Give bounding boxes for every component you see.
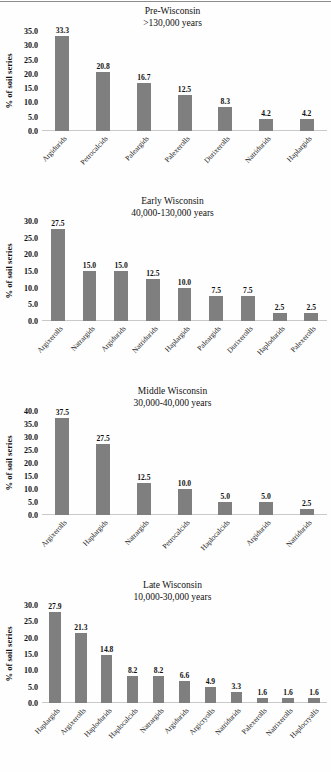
bar[interactable]	[205, 687, 216, 703]
bar[interactable]	[282, 698, 293, 703]
bar-slot: 27.5	[42, 221, 74, 321]
bar[interactable]	[75, 633, 86, 703]
bar-value-label: 1.6	[309, 688, 319, 697]
bar[interactable]	[127, 676, 138, 703]
bar-slot: 2.5	[286, 411, 327, 515]
bar-value-label: 6.6	[180, 671, 190, 680]
x-axis-labels: ArgixerollsNatrargidsArgiduridsNatriduri…	[42, 322, 327, 378]
y-tick-label: 10.0	[24, 485, 38, 494]
bar-series: 27.515.015.012.510.07.57.52.52.5	[42, 221, 327, 321]
bar[interactable]	[96, 444, 110, 516]
bar[interactable]	[146, 279, 160, 321]
bar-slot: 10.0	[169, 221, 201, 321]
y-tick-label: 15.0	[24, 267, 38, 276]
chart-title-line1: Early Wisconsin	[141, 196, 204, 206]
bar-value-label: 27.5	[96, 434, 109, 443]
bar[interactable]	[300, 509, 314, 516]
y-axis-label-text: % of soil series	[4, 53, 14, 108]
x-tick-label: Paleargids	[123, 134, 150, 163]
bar[interactable]	[83, 271, 97, 321]
chart-panel-late-wisconsin: Late Wisconsin 10,000-30,000 years % of …	[0, 580, 331, 772]
chart-title-line1: Late Wisconsin	[143, 580, 202, 590]
bar[interactable]	[178, 95, 192, 131]
bar[interactable]	[308, 698, 319, 703]
x-label-slot: Natrargids	[123, 516, 164, 572]
bar-slot: 8.2	[120, 605, 146, 703]
chart-title-1: Early Wisconsin 40,000-130,000 years	[0, 196, 331, 219]
x-label-slot: Durixerolls	[205, 132, 246, 188]
bar[interactable]	[304, 313, 318, 321]
bar[interactable]	[259, 502, 273, 515]
bar-series: 37.527.512.510.05.05.02.5	[42, 411, 327, 515]
y-axis-label-text: % of soil series	[4, 243, 14, 298]
bar-slot: 7.5	[200, 221, 232, 321]
bar[interactable]	[273, 313, 287, 321]
chart-panel-pre-wisconsin: Pre-Wisconsin >130,000 years % of soil s…	[0, 6, 331, 196]
bar[interactable]	[259, 119, 273, 131]
plot-area: 27.515.015.012.510.07.57.52.52.5	[42, 221, 327, 321]
x-label-slot: Haplargids	[169, 322, 201, 378]
x-tick-label: Argixerolls	[35, 324, 64, 355]
bar[interactable]	[241, 296, 255, 321]
y-tick-label: 20.0	[24, 250, 38, 259]
y-tick-label: 0.0	[28, 699, 38, 708]
y-tick-label: 20.0	[24, 633, 38, 642]
x-tick-label: Argidurids	[244, 518, 272, 547]
bar[interactable]	[179, 681, 190, 703]
bar[interactable]	[55, 418, 69, 516]
bar-slot: 15.0	[105, 221, 137, 321]
bar-value-label: 27.5	[51, 219, 64, 228]
bar-value-label: 1.6	[283, 688, 293, 697]
bar[interactable]	[114, 271, 128, 321]
x-label-slot: Argidurids	[42, 132, 83, 188]
bar-value-label: 15.0	[115, 261, 128, 270]
bar-slot: 14.8	[94, 605, 120, 703]
y-tick-label: 0.0	[28, 317, 38, 326]
chart-panel-middle-wisconsin: Middle Wisconsin 30,000-40,000 years % o…	[0, 386, 331, 580]
x-label-slot: Paleargids	[123, 132, 164, 188]
bar[interactable]	[257, 698, 268, 703]
bar-slot: 15.0	[74, 221, 106, 321]
bar[interactable]	[300, 119, 314, 131]
x-axis-labels: HaplargidsArgixerollsHaploduridsHaplocal…	[42, 704, 327, 760]
bar[interactable]	[137, 83, 151, 131]
bar[interactable]	[209, 296, 223, 321]
bar-value-label: 2.5	[302, 499, 312, 508]
bar[interactable]	[231, 692, 242, 703]
bar[interactable]	[218, 502, 232, 515]
x-tick-label: Natrargids	[123, 518, 151, 547]
x-tick-label: Petrocalcids	[78, 134, 109, 167]
bar[interactable]	[178, 489, 192, 515]
bar[interactable]	[55, 36, 69, 131]
x-tick-label: Palexerolls	[162, 134, 191, 164]
bar[interactable]	[137, 483, 151, 516]
y-tick-label: 25.0	[24, 55, 38, 64]
chart-title-0: Pre-Wisconsin >130,000 years	[0, 6, 331, 29]
bar[interactable]	[51, 229, 65, 321]
x-label-slot: Argixerolls	[42, 516, 83, 572]
bar-slot: 12.5	[123, 411, 164, 515]
x-label-slot: Palexerolls	[295, 322, 327, 378]
bar[interactable]	[49, 612, 60, 703]
bar[interactable]	[218, 107, 232, 131]
bar-slot: 3.3	[223, 605, 249, 703]
y-tick-label: 5.0	[28, 498, 38, 507]
bar-slot: 27.9	[42, 605, 68, 703]
x-label-slot: Argixerolls	[42, 322, 74, 378]
y-tick-label: 30.0	[24, 217, 38, 226]
bar-slot: 8.2	[146, 605, 172, 703]
y-tick-label: 15.0	[24, 472, 38, 481]
bar-value-label: 12.5	[146, 269, 159, 278]
bar-slot: 4.9	[197, 605, 223, 703]
y-tick-label: 30.0	[24, 41, 38, 50]
bar-value-label: 20.8	[96, 62, 109, 71]
bar[interactable]	[178, 288, 192, 321]
chart-title-line1: Middle Wisconsin	[138, 386, 207, 396]
bar-value-label: 7.5	[243, 286, 253, 295]
bar-value-label: 10.0	[178, 278, 191, 287]
bar[interactable]	[101, 655, 112, 703]
bar[interactable]	[96, 72, 110, 131]
y-tick-label: 5.0	[28, 682, 38, 691]
bar[interactable]	[153, 676, 164, 703]
bar-value-label: 33.3	[56, 26, 69, 35]
